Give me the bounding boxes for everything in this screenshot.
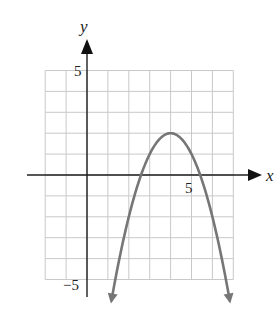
y-tick-label-5: 5 <box>74 63 82 79</box>
y-axis-arrow-icon <box>81 39 93 54</box>
x-axis-arrow-icon <box>248 169 262 181</box>
x-tick-label-5: 5 <box>185 180 193 196</box>
y-axis-label: y <box>78 17 88 36</box>
parabola-graph: x y 5 5 −5 <box>0 0 276 314</box>
y-tick-label-neg5: −5 <box>63 277 79 293</box>
x-axis-label: x <box>265 166 274 185</box>
curve-left-arrow-icon <box>108 293 118 304</box>
curve-right-arrow-icon <box>224 293 234 304</box>
